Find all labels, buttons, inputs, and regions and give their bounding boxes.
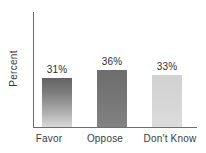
bar-oppose [97, 70, 127, 127]
bar-favor [42, 78, 72, 127]
bar-value-oppose: 36% [102, 56, 123, 67]
x-axis-line [33, 127, 197, 128]
x-tick-label-oppose: Oppose [78, 133, 132, 144]
x-tick-label-dont-know: Don't Know [138, 133, 202, 144]
bar-chart: Percent 31% 36% 33% Favor Oppose Don't K… [0, 0, 206, 153]
bar-value-favor: 31% [47, 64, 68, 75]
plot-area: 31% 36% 33% [34, 12, 197, 127]
bar-value-dont-know: 33% [157, 61, 178, 72]
y-axis-label: Percent [6, 26, 20, 110]
bar-dont-know [152, 75, 182, 127]
y-axis-label-text: Percent [8, 50, 19, 87]
x-tick-label-favor: Favor [22, 133, 76, 144]
